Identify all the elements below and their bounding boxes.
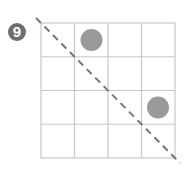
circle-r2-c3 bbox=[147, 97, 169, 119]
grid-diagram bbox=[0, 0, 186, 172]
circle-r0-c1 bbox=[81, 29, 103, 51]
